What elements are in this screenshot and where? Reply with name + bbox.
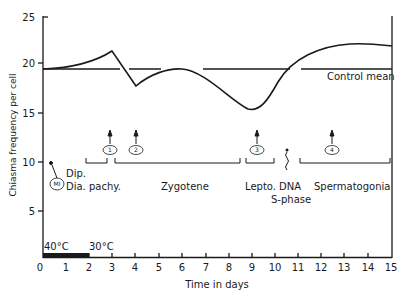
- svg-text:1: 1: [108, 146, 112, 153]
- svg-text:25: 25: [22, 12, 35, 23]
- svg-text:20: 20: [22, 58, 35, 69]
- svg-text:2: 2: [134, 146, 138, 153]
- svg-text:1: 1: [63, 262, 69, 273]
- svg-text:6: 6: [179, 262, 185, 273]
- y-tick-labels: 25 20 15 10 5: [22, 12, 35, 217]
- svg-text:5: 5: [29, 206, 35, 217]
- y-axis-label: Chiasma frequency per cell: [8, 73, 18, 196]
- svg-text:7: 7: [203, 262, 209, 273]
- label-dia-pachy: Dia. pachy.: [66, 181, 121, 192]
- label-zygotene: Zygotene: [161, 181, 209, 192]
- svg-text:11: 11: [292, 262, 305, 273]
- label-spermatogonia: Spermatogonia: [314, 181, 390, 192]
- svg-text:12: 12: [315, 262, 328, 273]
- svg-text:0: 0: [37, 262, 43, 273]
- svg-text:14: 14: [362, 262, 375, 273]
- dna-marker-icon: [286, 149, 289, 152]
- chiasma-chart: 25 20 15 10 5 0 1 2 3 4 5 6 7 8 9 10 11 …: [0, 0, 404, 297]
- label-lepto-dna: Lepto. DNA: [245, 181, 301, 192]
- control-mean-label: Control mean: [327, 71, 395, 82]
- svg-text:13: 13: [338, 262, 351, 273]
- svg-text:10: 10: [22, 157, 35, 168]
- svg-text:8: 8: [226, 262, 232, 273]
- label-s-phase: S-phase: [271, 194, 311, 205]
- temperature-bar: [43, 253, 89, 258]
- svg-text:MI: MI: [54, 180, 61, 187]
- stage-brackets: [86, 152, 390, 170]
- svg-text:15: 15: [22, 108, 35, 119]
- x-axis-label: Time in days: [184, 279, 249, 290]
- stage-arrows: [50, 130, 335, 178]
- temp-30-label: 30°C: [89, 241, 114, 252]
- svg-text:3: 3: [109, 262, 115, 273]
- svg-text:4: 4: [330, 146, 334, 153]
- svg-text:4: 4: [132, 262, 138, 273]
- label-dip: Dip.: [66, 168, 86, 179]
- axes: [38, 16, 392, 258]
- svg-text:3: 3: [255, 146, 259, 153]
- svg-text:9: 9: [249, 262, 255, 273]
- svg-text:15: 15: [385, 262, 398, 273]
- svg-text:10: 10: [269, 262, 282, 273]
- svg-text:5: 5: [156, 262, 162, 273]
- svg-text:2: 2: [86, 262, 92, 273]
- temp-40-label: 40°C: [44, 241, 69, 252]
- x-tick-labels: 0 1 2 3 4 5 6 7 8 9 10 11 12 13 14 15: [37, 262, 398, 273]
